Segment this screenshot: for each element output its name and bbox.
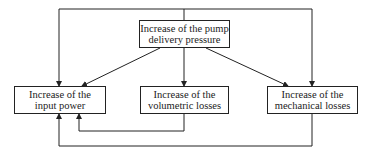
edge-right-to-left [59, 114, 312, 146]
edge-top-to-right [206, 48, 288, 86]
node-pump-delivery-pressure: Increase of the pump delivery pressure [139, 20, 230, 48]
node-label-line2: volumetric losses [148, 100, 221, 112]
node-label-line2: delivery pressure [140, 34, 228, 46]
edge-top-to-left [82, 48, 160, 86]
edge-middle-to-left [79, 114, 184, 131]
node-label-line1: Increase of the [275, 89, 351, 101]
node-label-line1: Increase of the [148, 89, 221, 101]
node-volumetric-losses: Increase of the volumetric losses [140, 86, 229, 114]
node-label-line2: mechanical losses [275, 100, 351, 112]
node-label-line1: Increase of the pump [140, 23, 228, 35]
node-input-power: Increase of the input power [14, 86, 106, 114]
node-mechanical-losses: Increase of the mechanical losses [267, 86, 358, 114]
node-label-line1: Increase of the [29, 89, 91, 101]
node-label-line2: input power [29, 100, 91, 112]
